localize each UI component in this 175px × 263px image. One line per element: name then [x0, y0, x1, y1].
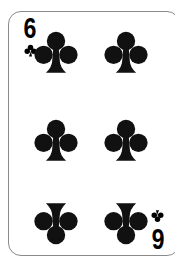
- card-scene: 6 6: [0, 0, 175, 263]
- pip-field: [9, 12, 175, 255]
- playing-card-six-of-clubs[interactable]: 6 6: [8, 11, 175, 256]
- club-pip-bottom-right: [103, 200, 149, 246]
- club-pip-bottom-left: [33, 200, 79, 246]
- club-pip-middle-right: [103, 118, 149, 164]
- club-pip-top-right: [103, 30, 149, 76]
- club-pip-middle-left: [33, 118, 79, 164]
- club-pip-top-left: [33, 30, 79, 76]
